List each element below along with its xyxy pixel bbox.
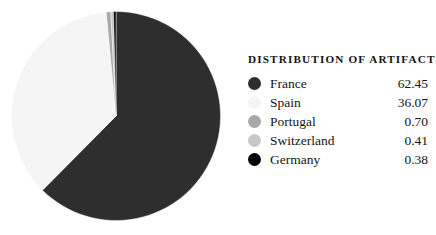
pie-chart-svg xyxy=(10,10,222,222)
legend-swatch-cell xyxy=(248,96,270,109)
pie-slice-group xyxy=(12,12,221,221)
legend-value: 0.70 xyxy=(382,112,428,131)
legend-row[interactable]: Portugal0.70 xyxy=(248,112,428,131)
legend-label: Germany xyxy=(270,150,382,169)
legend-row[interactable]: France62.45 xyxy=(248,74,428,93)
legend-label: Portugal xyxy=(270,112,382,131)
legend-label: Spain xyxy=(270,93,382,112)
legend-row[interactable]: Germany0.38 xyxy=(248,150,428,169)
legend-value: 0.38 xyxy=(382,150,428,169)
legend-label: Switzerland xyxy=(270,131,382,150)
legend-value: 0.41 xyxy=(382,131,428,150)
legend-swatch-cell xyxy=(248,134,270,147)
legend-swatch-cell xyxy=(248,115,270,128)
legend-label: France xyxy=(270,74,382,93)
legend-swatch-france-icon xyxy=(248,77,261,90)
legend-swatch-spain-icon xyxy=(248,96,261,109)
chart-legend: DISTRIBUTION OF ARTIFACTS France62.45Spa… xyxy=(248,52,428,169)
legend-swatch-switzerland-icon xyxy=(248,134,261,147)
legend-list: France62.45Spain36.07Portugal0.70Switzer… xyxy=(248,74,428,169)
legend-swatch-cell xyxy=(248,153,270,166)
legend-swatch-germany-icon xyxy=(248,153,261,166)
legend-value: 62.45 xyxy=(382,74,428,93)
legend-swatch-portugal-icon xyxy=(248,115,261,128)
legend-title: DISTRIBUTION OF ARTIFACTS xyxy=(248,52,428,66)
legend-swatch-cell xyxy=(248,77,270,90)
legend-row[interactable]: Switzerland0.41 xyxy=(248,131,428,150)
legend-row[interactable]: Spain36.07 xyxy=(248,93,428,112)
pie-chart-figure xyxy=(10,10,222,222)
chart-page: DISTRIBUTION OF ARTIFACTS France62.45Spa… xyxy=(0,0,436,235)
legend-value: 36.07 xyxy=(382,93,428,112)
